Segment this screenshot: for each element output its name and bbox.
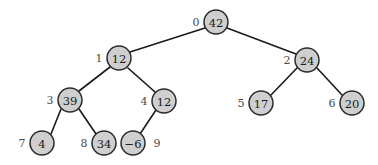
tree-edge — [140, 110, 156, 134]
node-index-label: 1 — [96, 52, 103, 65]
tree-canvas: 42012124239312417520647348−69 — [0, 0, 378, 165]
node-value-label: 4 — [38, 137, 45, 151]
node-value-label: 39 — [63, 94, 78, 108]
node-index-label: 4 — [141, 95, 148, 108]
node-value-label: 24 — [300, 54, 315, 68]
tree-node[interactable]: 206 — [329, 91, 365, 115]
tree-edge — [317, 68, 342, 95]
node-value-label: 12 — [157, 95, 172, 109]
node-value-label: 42 — [209, 16, 224, 30]
tree-edge — [271, 68, 297, 95]
tree-edge — [227, 28, 296, 54]
node-index-label: 0 — [193, 16, 200, 29]
tree-node[interactable]: 393 — [47, 88, 83, 112]
tree-edge — [79, 67, 110, 91]
node-index-label: 8 — [81, 137, 88, 150]
node-index-label: 6 — [329, 97, 336, 110]
node-index-label: 2 — [284, 54, 291, 67]
tree-edge — [128, 68, 155, 92]
node-value-label: −6 — [125, 137, 142, 151]
node-value-label: 12 — [112, 52, 127, 66]
tree-edge — [79, 109, 96, 134]
node-index-label: 3 — [47, 94, 54, 107]
binary-tree-figure: 42012124239312417520647348−69 — [0, 0, 378, 165]
node-index-label: 9 — [154, 137, 161, 150]
node-value-label: 20 — [345, 97, 360, 111]
tree-node[interactable]: 348 — [81, 131, 117, 155]
tree-node[interactable]: 121 — [96, 46, 132, 70]
tree-edge — [130, 28, 205, 52]
tree-edge — [51, 109, 61, 134]
tree-node[interactable]: −69 — [121, 131, 161, 155]
tree-node[interactable]: 175 — [238, 91, 274, 115]
node-value-label: 17 — [254, 97, 269, 111]
tree-node[interactable]: 124 — [141, 89, 177, 113]
node-value-label: 34 — [97, 137, 112, 151]
node-index-label: 5 — [238, 97, 245, 110]
tree-node[interactable]: 47 — [19, 131, 55, 155]
tree-edges — [51, 28, 342, 134]
node-index-label: 7 — [19, 137, 26, 150]
